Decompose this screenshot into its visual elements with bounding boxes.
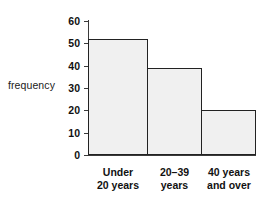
x-category-label-line-1: 40 years <box>199 166 259 179</box>
y-tick-label-0: 0 <box>58 150 80 161</box>
y-tick-label-10: 10 <box>58 128 80 139</box>
y-tick-label-50: 50 <box>58 38 80 49</box>
x-category-label-line-2: and over <box>199 179 259 192</box>
y-axis-title: frequency <box>8 79 55 91</box>
x-category-label-20-39-years: 20–39 years <box>147 166 202 192</box>
x-category-label-line-2: years <box>147 179 202 192</box>
bar-20-39-years <box>147 68 202 155</box>
y-tick-mark-0 <box>84 155 89 156</box>
y-tick-label-30: 30 <box>58 83 80 94</box>
y-tick-label-40: 40 <box>58 61 80 72</box>
bar-under-20-years <box>88 39 148 155</box>
y-tick-label-60: 60 <box>58 16 80 27</box>
x-axis-line <box>84 155 256 156</box>
x-category-label-40-years-and-over: 40 years and over <box>199 166 259 192</box>
x-category-label-line-1: 20–39 <box>147 166 202 179</box>
y-tick-label-20: 20 <box>58 105 80 116</box>
x-category-label-line-2: 20 years <box>88 179 148 192</box>
y-tick-mark-60 <box>84 21 89 22</box>
bar-40-years-and-over <box>201 110 256 155</box>
x-category-label-line-1: Under <box>88 166 148 179</box>
frequency-bar-chart: frequency 0 10 20 30 40 50 60 Under 20 y… <box>0 0 270 202</box>
x-category-label-under-20-years: Under 20 years <box>88 166 148 192</box>
